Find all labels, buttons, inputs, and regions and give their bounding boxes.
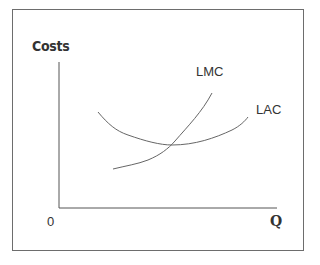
- lac-curve: [98, 112, 248, 145]
- origin-label: 0: [47, 214, 54, 229]
- y-axis-label: Costs: [32, 38, 69, 54]
- lmc-label: LMC: [196, 64, 223, 79]
- lmc-curve: [113, 93, 212, 169]
- lac-label: LAC: [256, 102, 281, 117]
- x-axis-label: Q: [270, 213, 282, 229]
